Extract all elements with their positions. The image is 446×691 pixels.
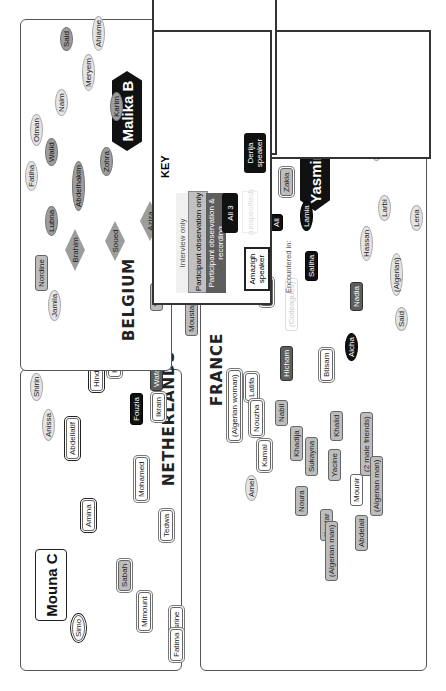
node-mimount: Mimount [138,592,151,631]
node-meryem: Meryem [82,54,95,91]
label-belgium: BELGIUM [120,258,138,341]
swatch-unspecified: (unspecified) [242,191,258,233]
node-nordine: Nordine [35,255,48,291]
swatch-participant-observation: Participant observation only [188,191,208,293]
node-mounir: Mounir [350,474,363,506]
node-latifa: Latifa [245,373,258,401]
label-france: FRANCE [208,333,226,406]
node-fatima: Fatima [170,629,183,661]
node-nouzha: Nouzha [250,400,263,436]
node-aicha: Aicha [345,333,358,361]
node-amina: Amina [82,500,95,531]
node-anissa: Anissa [42,409,55,441]
node-naim: Naim [55,89,68,116]
node-khalid: Khalid [330,411,343,441]
node-yacine: Yacine [328,449,341,481]
node-nadia: Nadia [350,282,363,311]
node-fouzia: Fouzia [130,393,143,425]
node-brahim: Brahim [65,229,85,271]
node-simo: Simo [72,615,85,641]
node-sabah: Sabah [118,560,131,591]
node-khadija: Khadija [290,426,303,461]
node-otman: Otman [30,114,43,146]
node-nabil: Nabil [275,400,288,426]
node-said-be: Said [60,27,73,51]
node-karim: Karim [110,92,123,121]
node-lubna: Lubna [45,206,58,236]
node-abdelhakim: Abdelhakim [72,161,85,211]
node-abdellatif: Abdellatif [66,418,79,459]
node-ikram: Ikram [152,393,165,421]
legend-frame: KEY Interview only Participant observati… [152,30,272,305]
node-zohra: Zohra [100,147,113,176]
node-walid: Walid [45,138,58,166]
ego-mouna-c: Mouna C [35,549,67,621]
swatch-interview-only: Interview only [176,193,188,293]
swatch-all-3: All 3 [222,193,238,233]
node-kamal: Kamal [258,440,271,471]
node-soued: Soued [105,221,125,261]
node-ahlame: Ahlame [92,16,105,51]
node-mohamed: Mohamed [135,457,148,501]
node-tedwa: Tedwa [160,510,173,541]
encountered-label: Encountered in: [284,240,293,293]
node-shirin: Shirin [30,373,43,401]
legend-rotated: KEY Interview only Participant observati… [152,30,272,305]
node-algerian-woman-fr: (Algerian woman) [228,370,241,441]
node-abdelali: Abdelali [355,515,368,551]
node-btisam: Btisam [320,349,333,381]
node-algerian-man-1: (Algerian man) [325,521,338,581]
panel-belgium [20,19,172,371]
node-fatiha: Fatiha [25,161,38,191]
node-said-fr: Said [395,307,408,331]
node-hicham: Hicham [280,346,293,381]
legend-title: KEY [159,155,171,178]
node-jamila: Jamila [48,290,61,321]
swatch-amazigh-speaker: Amazigh speaker [244,247,270,291]
node-noura: Noura [295,486,308,516]
node-sukayna: Sukayna [305,437,318,476]
node-algerian-man-2: (Algerian man) [370,456,383,516]
swatch-derija-speaker: Derija speaker [244,133,266,173]
node-amel: Amel [245,475,258,501]
